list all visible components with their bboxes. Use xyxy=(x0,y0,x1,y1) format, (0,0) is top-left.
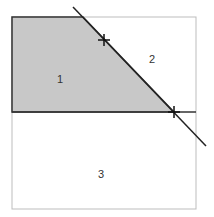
region-label-3: 3 xyxy=(98,168,104,180)
region-diagram: 1 2 3 xyxy=(0,0,214,217)
region-label-1: 1 xyxy=(57,73,63,85)
region-label-2: 2 xyxy=(149,53,155,65)
